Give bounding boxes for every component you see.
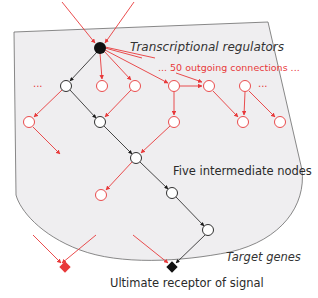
receptor-black-diamond xyxy=(166,261,177,272)
node-n2b xyxy=(95,117,106,128)
node-n2a xyxy=(24,117,35,128)
node-n5a xyxy=(203,225,214,236)
regulators-label: Transcriptional regulators xyxy=(130,40,284,54)
node-n1f xyxy=(240,81,251,92)
node-n1d xyxy=(169,81,180,92)
receptor-label: Ultimate receptor of signal xyxy=(110,276,264,290)
ellipsis-right: ... xyxy=(258,78,268,89)
target-gene-red-diamond xyxy=(59,261,70,272)
node-n1a xyxy=(61,81,72,92)
node-n4a xyxy=(96,190,107,201)
node-n2d xyxy=(238,117,249,128)
intermediate-nodes-label: Five intermediate nodes xyxy=(173,164,312,178)
node-n3a xyxy=(131,153,142,164)
cell-panel xyxy=(14,22,302,260)
node-n4b xyxy=(167,188,178,199)
node-n1e xyxy=(204,81,215,92)
outgoing-connections-label: ... 50 outgoing connections ... xyxy=(158,62,300,73)
ellipsis-left: ... xyxy=(33,78,43,89)
node-n2e xyxy=(275,117,286,128)
hub-node xyxy=(94,42,106,54)
node-n1b xyxy=(97,81,108,92)
node-n2c xyxy=(169,117,180,128)
target-genes-label: Target genes xyxy=(226,250,301,264)
node-n1c xyxy=(130,81,141,92)
